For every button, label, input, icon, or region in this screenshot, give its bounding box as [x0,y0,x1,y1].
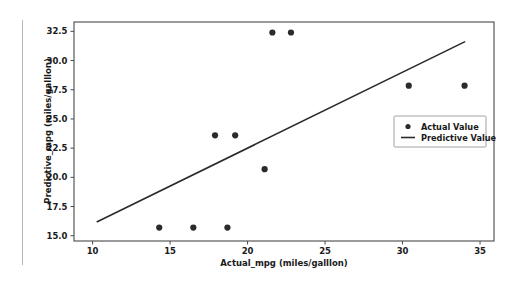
data-point [406,83,412,89]
x-tick-label: 10 [87,246,99,256]
x-tick-label: 15 [164,246,176,256]
data-point [269,29,275,35]
y-tick-label: 32.5 [47,26,68,36]
legend-label-predictive-value: Predictive Value [421,133,497,143]
x-tick-label: 35 [474,246,486,256]
data-point [232,132,238,138]
y-axis-title: Predictive_mpg (miles/galllon) [43,58,53,204]
legend-marker-actual-value-icon [405,124,410,129]
legend-label-actual-value: Actual Value [421,122,479,132]
data-point [156,224,162,230]
x-tick-label: 30 [397,246,409,256]
x-axis-ticks: 101520253035 [87,241,486,256]
data-point [262,166,268,172]
x-tick-label: 20 [242,246,254,256]
data-point [190,224,196,230]
x-axis-title: Actual_mpg (miles/galllon) [220,258,348,268]
data-point [461,83,467,89]
chart-legend[interactable]: Actual Value Predictive Value [394,116,497,147]
data-point [212,132,218,138]
data-point [288,29,294,35]
x-tick-label: 25 [319,246,331,256]
y-tick-label: 15.0 [47,231,68,241]
data-point [224,224,230,230]
figure-canvas: 101520253035 15.017.520.022.525.027.530.… [0,0,523,282]
scatter-plot: 101520253035 15.017.520.022.525.027.530.… [0,0,523,282]
